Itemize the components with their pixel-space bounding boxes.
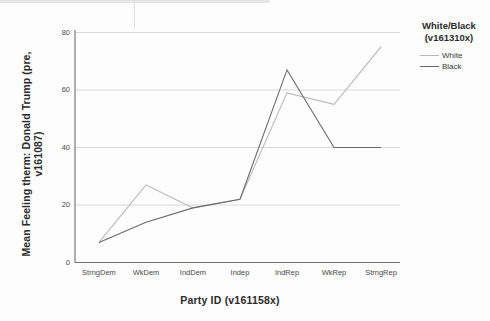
legend-item-black[interactable]: Black — [420, 61, 490, 72]
chart-container: Mean Feeling therm: Donald Trump (pre, v… — [0, 0, 490, 321]
legend-title-line2: (v161310x) — [408, 32, 490, 44]
legend-item-white[interactable]: White — [420, 50, 490, 61]
series-line-black — [99, 70, 381, 243]
x-tick-label-strngrep: StrngRep — [350, 268, 412, 277]
legend-items: White Black — [408, 50, 490, 72]
series-line-white — [99, 47, 381, 243]
legend-title: White/Black (v161310x) — [408, 20, 490, 43]
legend-swatch-black-icon — [420, 66, 439, 67]
legend-swatch-white-icon — [420, 55, 439, 56]
legend-label-white: White — [442, 51, 462, 60]
axis-lines — [75, 30, 400, 263]
legend-label-black: Black — [442, 62, 462, 71]
x-axis-title: Party ID (v161158x) — [70, 294, 390, 306]
legend-title-line1: White/Black — [408, 20, 490, 32]
gridlines — [75, 33, 400, 206]
legend: White/Black (v161310x) White Black — [408, 20, 490, 72]
